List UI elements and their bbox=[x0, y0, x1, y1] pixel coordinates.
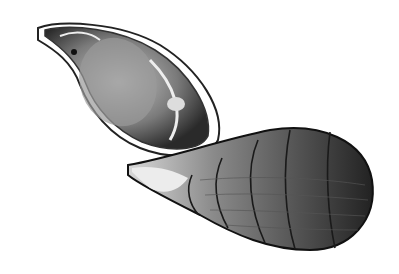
shell-illustration bbox=[0, 0, 399, 274]
illustration-canvas bbox=[0, 0, 399, 274]
shell-aperture-view bbox=[38, 24, 219, 156]
